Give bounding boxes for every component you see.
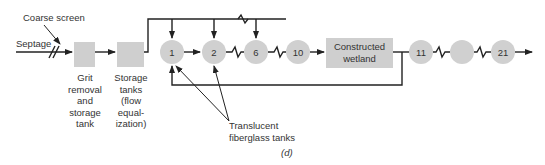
tank-1-label: 1 xyxy=(169,47,174,58)
storage-label: Storage tanks (flow equal- ization) xyxy=(108,72,154,130)
tank-10-label: 10 xyxy=(293,47,304,58)
tank-21-label: 21 xyxy=(498,47,509,58)
tank-unlabeled-circle xyxy=(450,40,474,64)
translucent-tanks-label: Translucent fiberglass tanks xyxy=(229,120,295,143)
septage-label: Septage xyxy=(16,38,51,50)
tank-2-label: 2 xyxy=(211,47,216,58)
figure-caption: (d) xyxy=(281,147,293,159)
wetland-label-2: wetland xyxy=(342,53,376,64)
tank-6-label: 6 xyxy=(253,47,258,58)
grit-label: Grit removal and storage tank xyxy=(64,72,106,130)
process-flow-diagram: Constructed wetland 1 2 6 10 11 21 Coars… xyxy=(0,0,545,165)
wetland-label-1: Constructed xyxy=(334,41,385,52)
tank-11-label: 11 xyxy=(416,47,426,58)
grit-removal-tank xyxy=(74,42,95,67)
storage-tank xyxy=(117,42,144,67)
coarse-screen-label: Coarse screen xyxy=(23,12,85,24)
